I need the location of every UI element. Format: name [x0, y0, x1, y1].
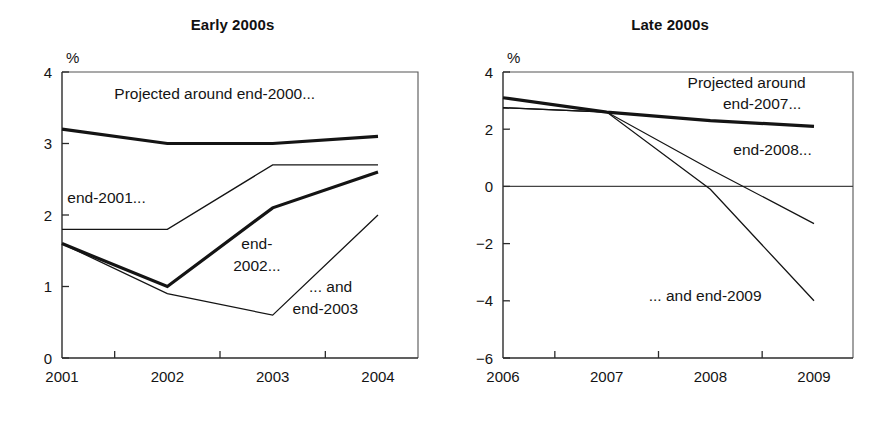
y-axis-unit-label: %: [66, 49, 79, 66]
y-tick-label: 2: [485, 121, 493, 138]
y-tick-label: 1: [44, 278, 52, 295]
y-tick-label: −4: [476, 292, 493, 309]
y-tick-label: −6: [476, 350, 493, 367]
panel-late-2000s: Late 2000s −6−4−2024%2006200720082009Pro…: [443, 0, 887, 425]
series-annotation: end-2007...: [723, 95, 801, 112]
y-axis-unit-label: %: [507, 49, 520, 66]
chart-late-2000s: −6−4−2024%2006200720082009Projected arou…: [443, 0, 887, 425]
x-tick-label: 2003: [256, 368, 289, 385]
y-tick-label: 0: [485, 178, 493, 195]
series-line: [503, 108, 814, 301]
chart-early-2000s: 01234%2001200220032004Projected around e…: [0, 0, 443, 425]
series-annotation: ... and: [309, 278, 352, 295]
y-tick-label: 4: [485, 64, 493, 81]
series-line: [62, 129, 378, 143]
plot-frame: [503, 72, 853, 358]
y-tick-label: 2: [44, 207, 52, 224]
x-tick-label: 2001: [45, 368, 78, 385]
y-tick-label: 0: [44, 350, 52, 367]
y-tick-label: −2: [476, 235, 493, 252]
x-tick-label: 2006: [486, 368, 519, 385]
plot-frame: [62, 72, 418, 358]
x-tick-label: 2009: [797, 368, 830, 385]
y-tick-label: 3: [44, 135, 52, 152]
series-annotation: end-2003: [293, 300, 359, 317]
series-annotation: Projected around end-2000...: [114, 85, 315, 102]
series-annotation: end-: [241, 235, 272, 252]
series-annotation: 2002...: [233, 257, 280, 274]
series-annotation: end-2008...: [733, 141, 811, 158]
panel-early-2000s: Early 2000s 01234%2001200220032004Projec…: [0, 0, 443, 425]
x-tick-label: 2008: [694, 368, 727, 385]
figure-two-panel-chart: Early 2000s 01234%2001200220032004Projec…: [0, 0, 887, 425]
y-tick-label: 4: [44, 64, 52, 81]
series-annotation: end-2001...: [67, 189, 145, 206]
x-tick-label: 2007: [590, 368, 623, 385]
x-tick-label: 2004: [361, 368, 394, 385]
x-tick-label: 2002: [151, 368, 184, 385]
series-annotation: Projected around: [688, 74, 806, 91]
series-annotation: ... and end-2009: [649, 287, 762, 304]
